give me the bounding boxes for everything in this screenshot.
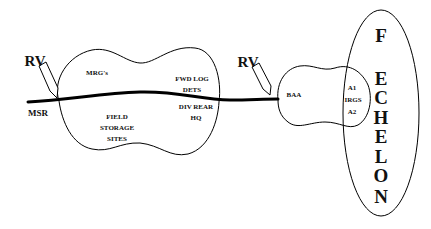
echelon-letter: C — [374, 88, 388, 107]
echelon-letter: O — [374, 166, 389, 185]
rv-label-right: RV — [237, 55, 258, 70]
irgs-label: IRGS — [344, 97, 361, 104]
hq-label: HQ — [191, 115, 202, 122]
msr-label: MSR — [28, 109, 48, 118]
baa-label: BAA — [287, 92, 302, 99]
storage-label: STORAGE — [100, 125, 134, 132]
echelon-letter: H — [374, 108, 389, 127]
sites-label: SITES — [107, 136, 127, 143]
echelon-letter: E — [375, 69, 388, 88]
echelon-letter: L — [375, 147, 388, 166]
a1-label: A1 — [348, 85, 357, 92]
mrgs-label: MRG's — [86, 70, 108, 77]
fwd-log-label: FWD LOG — [175, 76, 209, 83]
diagram-shapes — [0, 0, 431, 229]
div-rear-label: DIV REAR — [179, 104, 213, 111]
msr-road-line — [28, 92, 278, 102]
logistics-diagram: RV RV MSR MRG's FWD LOG DETS DIV REAR HQ… — [0, 0, 431, 229]
echelon-letter: N — [374, 187, 388, 206]
echelon-letter: F — [375, 26, 387, 45]
a2-label: A2 — [348, 109, 357, 116]
dets-label: DETS — [183, 87, 201, 94]
field-label: FIELD — [106, 114, 127, 121]
rv-label-left: RV — [24, 54, 45, 69]
echelon-letter: E — [375, 127, 388, 146]
left-area-outline — [57, 48, 219, 155]
